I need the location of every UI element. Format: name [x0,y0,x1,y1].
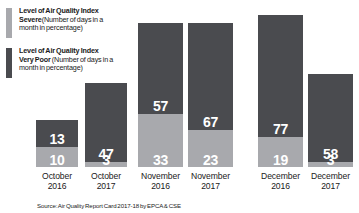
bar-value-severe: 23 [188,153,233,167]
stacked-bar[interactable]: 473 [85,83,127,167]
bar-segment-severe[interactable]: 10 [36,147,78,167]
bar-segment-very-poor[interactable]: 77 [258,15,303,137]
bar-segment-severe[interactable]: 3 [308,162,353,167]
bar-group: 583December2017 [308,74,353,167]
bar-segment-very-poor[interactable]: 58 [308,74,353,162]
bar-segment-very-poor[interactable]: 13 [36,120,78,147]
x-axis-tick-label-line: 2017 [181,181,240,191]
x-axis-tick-label-line: December [301,171,359,181]
bar-group: 5733November2016 [138,23,183,167]
bar-value-severe: 19 [258,153,303,167]
stacked-bar[interactable]: 7719 [258,15,303,167]
bar-segment-very-poor[interactable]: 47 [85,83,127,162]
bar-value-very-poor: 67 [188,115,233,129]
chart-source-note: Source: Air Quality Report Card 2017-18 … [37,202,181,209]
x-axis-tick-label-line: 2017 [301,181,359,191]
bar-value-severe: 10 [36,153,78,167]
stacked-bar[interactable]: 583 [308,74,353,167]
air-quality-index-stacked-bar-chart: Level of Air Quality Index Severe(Number… [0,0,359,213]
bar-value-very-poor: 13 [36,132,78,146]
bar-group: 1310October2016 [36,120,78,167]
x-axis-tick-label-line: 2017 [78,181,134,191]
bar-group: 7719December2016 [258,15,303,167]
x-axis-tick-label: December2017 [301,171,359,191]
x-axis-tick-label-line: November [181,171,240,181]
bar-value-severe: 3 [308,153,353,167]
x-axis-tick-label-line: 2016 [29,181,85,191]
bar-value-severe: 33 [138,153,183,167]
bar-segment-severe[interactable]: 23 [188,130,233,167]
bar-group: 473October2017 [85,83,127,167]
bar-value-severe: 3 [85,153,127,167]
stacked-bar[interactable]: 5733 [138,23,183,167]
bar-group: 6723November2017 [188,23,233,167]
bar-segment-severe[interactable]: 19 [258,137,303,167]
x-axis-tick-label: October2016 [29,171,85,191]
stacked-bar[interactable]: 6723 [188,23,233,167]
x-axis-tick-label-line: October [29,171,85,181]
bar-value-very-poor: 77 [258,122,303,136]
bar-segment-very-poor[interactable]: 57 [138,23,183,114]
bar-segment-severe[interactable]: 3 [85,162,127,167]
plot-area: 1310October2016473October20175733Novembe… [0,0,359,213]
x-axis-tick-label-line: October [78,171,134,181]
x-axis-tick-label: October2017 [78,171,134,191]
bar-value-very-poor: 57 [138,99,183,113]
bar-segment-very-poor[interactable]: 67 [188,23,233,130]
stacked-bar[interactable]: 1310 [36,120,78,167]
bar-segment-severe[interactable]: 33 [138,114,183,167]
x-axis-tick-label: November2017 [181,171,240,191]
